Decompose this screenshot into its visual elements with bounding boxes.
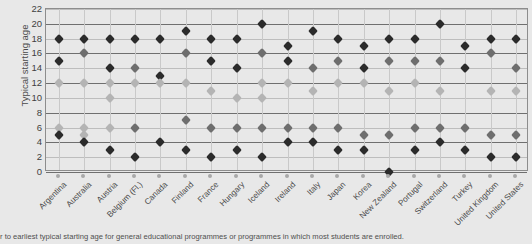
x-axis-tick-dot bbox=[157, 174, 161, 178]
data-point-marker bbox=[54, 78, 64, 88]
data-point-marker bbox=[105, 93, 115, 103]
data-point-marker bbox=[257, 19, 267, 29]
y-axis-tick-label: 0 bbox=[37, 167, 42, 177]
data-point-marker bbox=[435, 123, 445, 133]
data-point-marker bbox=[308, 123, 318, 133]
data-point-marker bbox=[308, 63, 318, 73]
data-point-marker bbox=[283, 56, 293, 66]
y-axis-tick-label: 16 bbox=[31, 49, 42, 59]
x-axis-tick-label: Japan bbox=[326, 180, 348, 202]
y-axis-tick-label: 2 bbox=[37, 152, 42, 162]
data-point-marker bbox=[333, 145, 343, 155]
x-axis-tick-dot bbox=[56, 174, 60, 178]
data-point-marker bbox=[410, 123, 420, 133]
gridline-vertical bbox=[59, 9, 60, 170]
data-point-marker bbox=[384, 86, 394, 96]
plot-area: 0246810121416182022 bbox=[45, 8, 528, 171]
data-point-marker bbox=[359, 63, 369, 73]
data-point-marker bbox=[486, 86, 496, 96]
data-point-marker bbox=[486, 152, 496, 162]
data-point-marker bbox=[130, 34, 140, 44]
x-axis-tick-label: France bbox=[196, 180, 220, 204]
data-point-marker bbox=[359, 78, 369, 88]
data-point-marker bbox=[384, 56, 394, 66]
data-point-marker bbox=[130, 63, 140, 73]
x-axis-tick-label: Canada bbox=[143, 180, 170, 207]
x-axis-tick-dot bbox=[208, 174, 212, 178]
x-axis-tick-dot bbox=[437, 174, 441, 178]
data-point-marker bbox=[257, 152, 267, 162]
gridline-horizontal bbox=[46, 68, 527, 69]
data-point-marker bbox=[79, 34, 89, 44]
data-point-marker bbox=[206, 152, 216, 162]
x-axis-tick-dot bbox=[335, 174, 339, 178]
data-point-marker bbox=[333, 56, 343, 66]
data-point-marker bbox=[155, 34, 165, 44]
x-axis-tick-label: Australia bbox=[65, 180, 94, 209]
data-point-marker bbox=[308, 137, 318, 147]
gridline-horizontal bbox=[46, 9, 527, 10]
data-point-marker bbox=[460, 63, 470, 73]
data-point-marker bbox=[54, 56, 64, 66]
data-point-marker bbox=[435, 86, 445, 96]
data-point-marker bbox=[283, 78, 293, 88]
y-axis-tick-label: 8 bbox=[37, 108, 42, 118]
data-point-marker bbox=[232, 34, 242, 44]
data-point-marker bbox=[130, 152, 140, 162]
gridline-vertical bbox=[262, 9, 263, 170]
data-point-marker bbox=[79, 137, 89, 147]
x-axis-tick-dot bbox=[81, 174, 85, 178]
gridline-horizontal bbox=[46, 113, 527, 114]
data-point-marker bbox=[105, 34, 115, 44]
data-point-marker bbox=[511, 86, 521, 96]
x-axis-tick-dot bbox=[386, 174, 390, 178]
data-point-marker bbox=[105, 63, 115, 73]
data-point-marker bbox=[460, 123, 470, 133]
data-point-marker bbox=[410, 145, 420, 155]
x-axis-tick-dot bbox=[234, 174, 238, 178]
x-axis-tick-label: Italy bbox=[305, 180, 322, 197]
data-point-marker bbox=[232, 123, 242, 133]
gridline-horizontal bbox=[46, 53, 527, 54]
data-point-marker bbox=[181, 26, 191, 36]
x-axis-tick-dot bbox=[412, 174, 416, 178]
x-axis-tick-label: Turkey bbox=[451, 180, 475, 204]
gridline-horizontal bbox=[46, 172, 527, 173]
x-axis-tick-label: Iceland bbox=[246, 180, 271, 205]
data-point-marker bbox=[257, 78, 267, 88]
data-point-marker bbox=[257, 49, 267, 59]
data-point-marker bbox=[359, 41, 369, 51]
data-point-marker bbox=[410, 56, 420, 66]
data-point-marker bbox=[257, 93, 267, 103]
y-axis-tick-label: 20 bbox=[31, 19, 42, 29]
data-point-marker bbox=[359, 145, 369, 155]
data-point-marker bbox=[283, 137, 293, 147]
data-point-marker bbox=[460, 145, 470, 155]
data-point-marker bbox=[435, 56, 445, 66]
data-point-marker bbox=[333, 78, 343, 88]
y-axis-tick-label: 18 bbox=[31, 34, 42, 44]
x-axis-tick-dot bbox=[132, 174, 136, 178]
data-point-marker bbox=[435, 137, 445, 147]
data-point-marker bbox=[206, 34, 216, 44]
data-point-marker bbox=[232, 145, 242, 155]
data-point-marker bbox=[511, 63, 521, 73]
gridline-horizontal bbox=[46, 39, 527, 40]
data-point-marker bbox=[181, 145, 191, 155]
chart-footnote: r to earliest typical starting age for g… bbox=[0, 232, 404, 241]
data-point-marker bbox=[232, 93, 242, 103]
data-point-marker bbox=[181, 78, 191, 88]
data-point-marker bbox=[333, 123, 343, 133]
data-point-marker bbox=[384, 130, 394, 140]
data-point-marker bbox=[105, 78, 115, 88]
x-axis-tick-label: Austria bbox=[95, 180, 119, 204]
data-point-marker bbox=[105, 145, 115, 155]
y-axis-tick-label: 10 bbox=[31, 93, 42, 103]
y-axis-tick-label: 22 bbox=[31, 4, 42, 14]
data-point-marker bbox=[155, 137, 165, 147]
chart-container: Typical starting age 0246810121416182022… bbox=[0, 0, 532, 244]
data-point-marker bbox=[206, 86, 216, 96]
data-point-marker bbox=[511, 130, 521, 140]
x-axis-tick-dot bbox=[259, 174, 263, 178]
gridline-horizontal bbox=[46, 98, 527, 99]
